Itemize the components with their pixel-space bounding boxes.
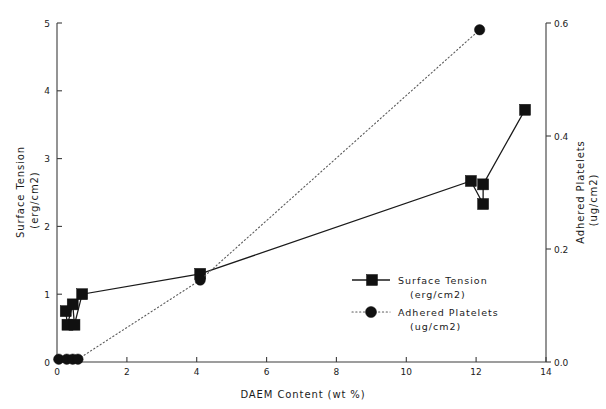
y-axis-right-title-line1: Adhered Platelets: [575, 140, 586, 243]
x-tick-label-0: 0: [54, 367, 60, 377]
x-tick-label-12: 12: [470, 367, 481, 377]
legend-sublabel-surface-tension: (erg/cm2): [410, 289, 466, 300]
legend-marker-circle: [366, 307, 377, 318]
y2-tick-label-1: 0.2: [554, 245, 568, 255]
y-tick-label-0: 0: [44, 358, 50, 368]
y-axis-left-ticks: 0 1 2 3 4 5: [44, 19, 62, 368]
legend-label-adhered-platelets: Adhered Platelets: [398, 307, 499, 318]
data-point: [195, 275, 205, 285]
x-tick-label-8: 8: [334, 367, 340, 377]
y-axis-left-title-line2: (erg/cm2): [29, 171, 40, 228]
x-axis-title: DAEM Content (wt %): [240, 389, 365, 400]
x-tick-label-10: 10: [401, 367, 413, 377]
data-point: [465, 175, 476, 186]
x-tick-label-2: 2: [124, 367, 130, 377]
data-point: [474, 25, 484, 35]
data-point: [478, 179, 489, 190]
legend-entry-surface-tension[interactable]: Surface Tension (erg/cm2): [352, 275, 488, 301]
y-tick-label-1: 1: [44, 290, 50, 300]
x-tick-label-14: 14: [540, 367, 552, 377]
y2-tick-label-3: 0.6: [554, 19, 569, 29]
y-tick-label-4: 4: [44, 86, 50, 96]
data-point: [77, 289, 88, 300]
data-point: [69, 319, 80, 330]
y-tick-label-5: 5: [44, 19, 50, 29]
y2-tick-label-2: 0.4: [554, 132, 569, 142]
data-point: [478, 199, 489, 210]
legend-marker-square: [367, 275, 378, 286]
x-tick-label-6: 6: [264, 367, 270, 377]
y-axis-right-ticks: 0.0 0.2 0.4 0.6: [546, 19, 569, 368]
data-point: [73, 354, 83, 364]
x-axis-ticks: 0 2 4 6 8 10 12 14: [54, 357, 552, 377]
legend-label-surface-tension: Surface Tension: [398, 275, 488, 286]
data-point: [520, 104, 531, 115]
chart-figure: 0 1 2 3 4 5 0.0 0.2 0.4 0.6: [0, 0, 606, 409]
y-axis-left-title-line1: Surface Tension: [15, 146, 26, 238]
legend-sublabel-adhered-platelets: (ug/cm2): [410, 321, 461, 332]
data-point: [67, 299, 78, 310]
plot-canvas: 0 1 2 3 4 5 0.0 0.2 0.4 0.6: [0, 0, 606, 409]
y2-tick-label-0: 0.0: [554, 358, 569, 368]
legend-entry-adhered-platelets[interactable]: Adhered Platelets (ug/cm2): [352, 307, 499, 333]
y-axis-right-title-line2: (ug/cm2): [588, 174, 599, 227]
x-tick-label-4: 4: [194, 367, 200, 377]
y-tick-label-3: 3: [44, 154, 50, 164]
y-tick-label-2: 2: [44, 222, 50, 232]
legend: Surface Tension (erg/cm2) Adhered Platel…: [352, 275, 499, 333]
